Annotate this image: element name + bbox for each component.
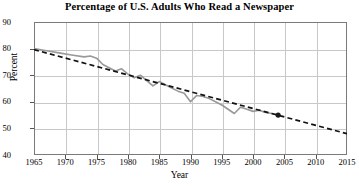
x-tick-label: 2015	[327, 157, 359, 167]
y-tick-label: 50	[0, 123, 11, 133]
x-tick-mark	[253, 155, 254, 159]
y-tick-label: 90	[0, 17, 11, 27]
chart-title: Percentage of U.S. Adults Who Read a New…	[0, 1, 359, 12]
y-tick-label: 40	[0, 150, 11, 160]
y-axis-title: Percent	[9, 27, 19, 107]
data-end-marker	[276, 113, 281, 118]
y-tick-label: 70	[0, 70, 11, 80]
x-tick-mark	[222, 155, 223, 159]
x-tick-mark	[316, 155, 317, 159]
x-tick-mark	[159, 155, 160, 159]
trend-line-dashed	[34, 50, 347, 134]
chart-container: Percentage of U.S. Adults Who Read a New…	[0, 0, 359, 186]
x-axis-title: Year	[0, 170, 359, 180]
y-tick-label: 80	[0, 43, 11, 53]
y-tick-label: 60	[0, 96, 11, 106]
x-tick-mark	[65, 155, 66, 159]
x-tick-mark	[284, 155, 285, 159]
x-tick-mark	[191, 155, 192, 159]
chart-data-layer	[34, 22, 347, 155]
x-tick-mark	[97, 155, 98, 159]
x-tick-mark	[128, 155, 129, 159]
